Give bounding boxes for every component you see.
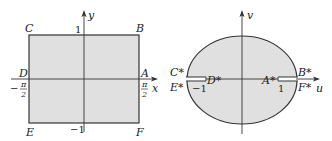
tick-left-sign: − xyxy=(10,83,18,94)
tick-right-numerator: π xyxy=(141,80,148,89)
left-slit xyxy=(185,77,207,81)
conformal-map-diagram: y x C B D A E F 1 −1 − π 2 π 2 xyxy=(0,0,332,141)
tick-label-top: 1 xyxy=(75,24,81,35)
corner-label-b: B xyxy=(135,22,144,35)
y-axis-label: y xyxy=(87,9,95,22)
tick-label-one: 1 xyxy=(278,83,284,94)
corner-label-e: E xyxy=(25,126,34,139)
right-slit xyxy=(277,77,299,81)
right-ellipse-figure: v u C* E* D* A* B* F* −1 1 xyxy=(169,9,323,134)
point-label-d: D* xyxy=(206,74,222,87)
left-rectangle-figure: y x C B D A E F 1 −1 − π 2 π 2 xyxy=(10,9,159,139)
tick-label-right: π 2 xyxy=(141,80,148,99)
tick-label-left: − π 2 xyxy=(10,80,27,99)
v-axis-label: v xyxy=(247,9,254,22)
point-label-e: E* xyxy=(169,81,184,94)
point-label-b: B* xyxy=(297,66,312,79)
corner-label-d: D xyxy=(18,67,28,80)
corner-label-c: C xyxy=(25,22,34,35)
tick-left-denominator: 2 xyxy=(20,90,26,99)
u-axis-label: u xyxy=(316,82,323,95)
tick-label-minus-one: −1 xyxy=(192,83,207,94)
x-axis-label: x xyxy=(152,82,159,95)
tick-right-denominator: 2 xyxy=(141,90,147,99)
point-label-f: F* xyxy=(297,81,312,94)
point-label-a: A* xyxy=(261,74,276,87)
point-label-c: C* xyxy=(170,66,184,79)
tick-left-numerator: π xyxy=(20,80,27,89)
tick-label-bottom: −1 xyxy=(70,124,85,135)
corner-label-a: A xyxy=(140,67,149,80)
corner-label-f: F xyxy=(135,126,144,139)
